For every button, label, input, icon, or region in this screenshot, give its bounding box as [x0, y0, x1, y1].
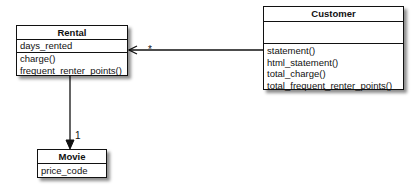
- class-customer: Customer statement() html_statement() to…: [263, 6, 404, 90]
- method: frequent_renter_points(): [20, 65, 127, 77]
- attribute: days_rented: [20, 40, 127, 52]
- method: total_charge(): [267, 68, 403, 80]
- class-name: Customer: [264, 7, 403, 22]
- class-name: Rental: [17, 26, 127, 40]
- method: html_statement(): [267, 57, 403, 69]
- method: statement(): [267, 45, 403, 57]
- class-movie: Movie price_code: [37, 149, 107, 178]
- attributes-section: [264, 22, 403, 44]
- attributes-section: days_rented: [17, 40, 127, 53]
- class-name: Movie: [38, 150, 106, 164]
- methods-section: charge() frequent_renter_points(): [17, 53, 127, 76]
- attribute: price_code: [41, 164, 106, 177]
- multiplicity-one: 1: [75, 130, 81, 141]
- class-rental: Rental days_rented charge() frequent_ren…: [16, 25, 128, 76]
- multiplicity-many: *: [148, 44, 152, 55]
- attributes-section: price_code: [38, 164, 106, 177]
- method: charge(): [20, 53, 127, 65]
- method: total_frequent_renter_points(): [267, 80, 403, 92]
- arrowhead-icon: [66, 140, 74, 149]
- methods-section: statement() html_statement() total_charg…: [264, 44, 403, 91]
